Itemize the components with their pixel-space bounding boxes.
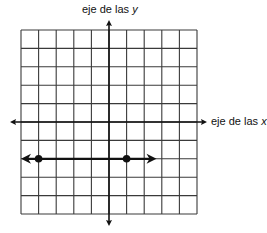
- data-series: [21, 154, 157, 164]
- y-axis-label-variable: y: [132, 3, 138, 15]
- y-axis-label-prefix: eje de las: [82, 3, 129, 15]
- x-axis-label: eje de las x: [211, 116, 267, 127]
- x-axis-label-prefix: eje de las: [211, 115, 258, 127]
- y-axis-label: eje de las y: [82, 4, 138, 15]
- x-axis-label-variable: x: [261, 115, 267, 127]
- data-point: [35, 155, 43, 163]
- data-point: [123, 155, 131, 163]
